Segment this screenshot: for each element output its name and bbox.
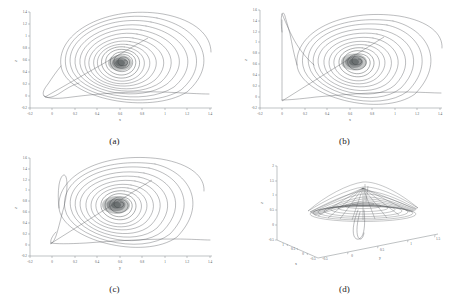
panel-a-caption: (a) [0,136,229,146]
panel-d-plot: -0.5 0 0.5 1 1.5 2 -0.5 0 0.5 1 -0.5 0 0… [230,148,459,276]
panel-c-ytick-1: 0 [25,243,27,247]
panel-b-ytick-3: 0.4 [253,73,258,77]
panel-a-ytick-0: -0.2 [22,106,28,110]
panel-b-plot: -0.2 0 0.2 0.4 0.6 0.8 1 1.2 1.4 1.6 -0.… [230,0,459,128]
panel-d-caption: (d) [230,284,459,294]
panel-b-xtick-5: 0.8 [370,112,375,116]
panel-c-xtick-8: 1.4 [208,260,213,264]
panel-b-xtick-3: 0.4 [325,112,330,116]
panel-d-ytick-4: 1.5 [436,237,441,241]
panel-b-xlabel: x [349,118,351,122]
panel-a-xtick-1: 0 [51,112,53,116]
panel-a-plot: -0.2 0 0.2 0.4 0.6 0.8 1 1.2 1.4 -0.2 0 … [0,0,229,128]
panel-a-ytick-4: 0.6 [23,58,28,62]
panel-b-ytick-0: -0.2 [252,106,258,110]
panel-b-xtick-8: 1.4 [438,112,443,116]
panel-b-ytick-8: 1.4 [253,19,258,23]
panel-b: -0.2 0 0.2 0.4 0.6 0.8 1 1.2 1.4 1.6 -0.… [230,0,459,148]
panel-c-xtick-4: 0.6 [118,260,123,264]
panel-b-ylabel: z [244,59,248,61]
panel-b-xtick-0: -0.2 [257,112,263,116]
panel-d-ztick-0: -0.5 [269,238,275,242]
panel-c-xtick-0: -0.2 [27,260,33,264]
panel-c-xtick-5: 0.8 [140,260,145,264]
panel-c-xtick-7: 1.2 [185,260,190,264]
panel-a-ytick-2: 0.2 [23,82,28,86]
panel-c-xtick-2: 0.2 [73,260,78,264]
panel-a: -0.2 0 0.2 0.4 0.6 0.8 1 1.2 1.4 -0.2 0 … [0,0,229,148]
panel-b-ytick-9: 1.6 [253,8,258,12]
panel-a-trajectory [43,12,211,103]
panel-c-ytick-3: 0.4 [23,221,28,225]
panel-b-xtick-2: 0.2 [303,112,308,116]
panel-b-ytick-4: 0.6 [253,62,258,66]
panel-a-ytick-7: 1.2 [23,22,28,26]
panel-b-xtick-6: 1 [394,112,396,116]
panel-b-xtick-1: 0 [281,112,283,116]
panel-d-ztick-1: 0 [272,223,274,227]
panel-b-ytick-6: 1 [255,40,257,44]
panel-d-ylabel: y [379,256,381,260]
panel-a-ytick-1: 0 [25,94,27,98]
panel-d-ytick-2: 0.5 [380,248,385,252]
panel-a-ylabel: z [14,60,18,62]
panel-d-zlabel: z [260,202,264,204]
panel-d-ytick-0: -0.5 [322,257,328,261]
panel-b-ytick-5: 0.8 [253,51,258,55]
panel-d-ztick-3: 1 [272,193,274,197]
panel-c-ytick-8: 1.4 [23,167,28,171]
panel-c-ytick-9: 1.6 [23,156,28,160]
panel-c-ytick-4: 0.6 [23,210,28,214]
panel-c-xlabel: y [119,266,121,270]
panel-d-xtick-1: 0 [302,252,304,256]
panel-d-xtick-0: -0.5 [310,257,316,261]
panel-d-xlabel: x [295,262,297,266]
panel-a-ytick-6: 1 [25,34,27,38]
panel-a-xtick-3: 0.4 [95,112,100,116]
panel-b-caption: (b) [230,136,459,146]
panel-c-xtick-1: 0 [51,260,53,264]
panel-d-ytick-3: 1 [410,242,412,246]
panel-c-plot: -0.2 0 0.2 0.4 0.6 0.8 1 1.2 1.4 1.6 -0.… [0,148,229,276]
figure-root: -0.2 0 0.2 0.4 0.6 0.8 1 1.2 1.4 -0.2 0 … [0,0,459,297]
panel-c-ytick-7: 1.2 [23,178,28,182]
panel-c-ylabel: z [14,207,18,209]
panel-b-ytick-7: 1.2 [253,30,258,34]
panel-b-xtick-4: 0.6 [348,112,353,116]
panel-a-xtick-5: 0.8 [140,112,145,116]
panel-a-xlabel: x [119,118,121,122]
panel-d-xtick-3: 1 [282,243,284,247]
panel-d-axes: -0.5 0 0.5 1 1.5 2 -0.5 0 0.5 1 -0.5 0 0… [260,164,440,266]
panel-a-ytick-8: 1.4 [23,10,28,14]
panel-c-trajectory [50,157,210,247]
panel-d-ztick-2: 0.5 [270,208,275,212]
panel-d: -0.5 0 0.5 1 1.5 2 -0.5 0 0.5 1 -0.5 0 0… [230,148,459,296]
panel-d-attractor-surface [308,182,418,239]
panel-c-ytick-0: -0.2 [22,254,28,258]
panel-c: -0.2 0 0.2 0.4 0.6 0.8 1 1.2 1.4 1.6 -0.… [0,148,229,296]
panel-a-xtick-2: 0.2 [73,112,78,116]
panel-b-xtick-7: 1.2 [415,112,420,116]
panel-d-ztick-4: 1.5 [270,179,275,183]
panel-c-ytick-2: 0.2 [23,232,28,236]
panel-b-ytick-2: 0.2 [253,84,258,88]
panel-d-ztick-5: 2 [272,164,274,168]
panel-c-xtick-6: 1 [164,260,166,264]
panel-b-ytick-1: 0 [255,95,257,99]
panel-c-ytick-5: 0.8 [23,199,28,203]
panel-a-xtick-4: 0.6 [118,112,123,116]
panel-c-xtick-3: 0.4 [95,260,100,264]
panel-c-caption: (c) [0,284,229,294]
panel-c-ytick-6: 1 [25,188,27,192]
panel-a-xtick-7: 1.2 [185,112,190,116]
panel-a-xtick-6: 1 [164,112,166,116]
panel-d-ytick-1: 0 [351,254,353,258]
panel-a-ytick-5: 0.8 [23,46,28,50]
panel-a-ytick-3: 0.4 [23,70,28,74]
panel-a-xtick-0: -0.2 [27,112,33,116]
panel-a-xtick-8: 1.4 [208,112,213,116]
panel-b-trajectory [281,13,442,104]
panel-d-xtick-2: 0.5 [291,247,296,251]
